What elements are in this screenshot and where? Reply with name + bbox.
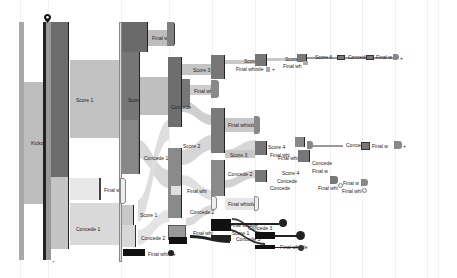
label-concede-j: Concede — [348, 54, 368, 60]
node-col3-score[interactable] — [168, 57, 182, 127]
end-dot-icon[interactable] — [168, 250, 174, 256]
node-col2-concede2[interactable] — [122, 225, 136, 247]
label-final-whi-o: Final whi — [318, 185, 338, 191]
node-col8-final[interactable] — [361, 179, 368, 186]
node-col3-black[interactable] — [169, 237, 187, 244]
label-final-whistle-d: Final whistle — [228, 122, 256, 128]
node-col2-final[interactable] — [120, 178, 126, 204]
label-concede-r: Concede — [277, 178, 297, 184]
link-score2 — [140, 77, 169, 115]
node-col3-final[interactable] — [167, 22, 175, 46]
node-col9-mid-final[interactable] — [394, 141, 402, 149]
node-col3-mid[interactable] — [168, 148, 182, 218]
node-col4-mid[interactable] — [211, 160, 225, 196]
node-col4-black[interactable] — [211, 219, 231, 231]
node-col4-final[interactable] — [211, 80, 219, 98]
label-score4b: Score 4 — [268, 144, 285, 150]
label-score2b: Score 2 — [183, 143, 200, 149]
node-col2-black[interactable] — [123, 249, 145, 256]
node-col6-mid1[interactable] — [295, 137, 305, 147]
label-concede1: Concede 1 — [76, 226, 100, 232]
node-concede-bar[interactable] — [51, 177, 69, 249]
node-final-w-a[interactable] — [99, 178, 101, 200]
label-final-w-a: Final w — [104, 187, 120, 193]
label-final-whistle-f: Final whistle — [228, 201, 256, 207]
node-col3-pale[interactable] — [171, 186, 181, 195]
label-final-wh-c: Final wh — [194, 88, 213, 94]
label-concede3b: Concede 3 — [248, 225, 272, 231]
label-final-wh-i: Final wh — [283, 63, 302, 69]
node-col8-concede[interactable] — [366, 55, 374, 60]
node-col4-black2[interactable] — [211, 235, 231, 241]
end-dot-icon[interactable] — [296, 231, 305, 240]
node-col7-score6[interactable] — [337, 55, 345, 60]
label-final-whistle-h: Final whistle — [236, 66, 264, 72]
label-final-whi-t2: Final whi — [342, 188, 362, 194]
node-col5-black2[interactable] — [255, 245, 275, 249]
link-mid-chain — [313, 145, 343, 147]
label-score6: Score 6 — [315, 54, 332, 60]
sankey-diagram: Kickoff + Score 1 Final w Concede 1 Scor… — [0, 0, 457, 278]
label-score3b: Score 3 — [230, 152, 247, 158]
node-col5-score4[interactable] — [255, 54, 267, 66]
label-final-whi-e: Final whi — [187, 188, 207, 194]
label-final-w-n: Final w — [312, 168, 328, 174]
link-concede1 — [70, 203, 120, 245]
label-score1: Score 1 — [76, 97, 93, 103]
map-pin-icon[interactable] — [44, 14, 51, 23]
label-concede2: Concede 2 — [141, 235, 165, 241]
node-final-whistle-f[interactable] — [254, 196, 259, 211]
label-concede2-mid: Concede 2 — [228, 171, 252, 177]
link-final-w-a — [70, 178, 100, 200]
node-col5-score4b[interactable] — [255, 141, 267, 155]
node-col5-final[interactable] — [266, 67, 270, 72]
node-col6-final[interactable] — [303, 61, 308, 65]
label-final-w-q: Final w — [372, 143, 388, 149]
label-plus-c: + — [403, 143, 406, 149]
label-score4c: Score 4 — [282, 170, 299, 176]
label-plus-a: + — [272, 66, 275, 72]
label-score1b: Score 1 — [140, 212, 157, 218]
label-final-w-s: Final w — [343, 180, 359, 186]
node-col4-concede[interactable] — [211, 108, 225, 153]
node-col9-final[interactable] — [393, 54, 399, 60]
label-concede-mid: Concede — [171, 104, 191, 110]
node-col8-mid[interactable] — [361, 142, 370, 150]
node-col4-score3[interactable] — [211, 55, 225, 79]
node-col4-final-pale[interactable] — [211, 196, 217, 210]
label-plus: + — [52, 258, 55, 264]
node-col5-black[interactable] — [255, 232, 275, 239]
node-col3-final-wh[interactable] — [182, 79, 190, 107]
node-final-whistle-d[interactable] — [254, 116, 260, 134]
node-col2-top[interactable] — [122, 22, 148, 52]
label-concede-m: Concede — [312, 160, 332, 166]
node-col6-final2[interactable] — [330, 176, 338, 184]
node-col8-final-pale[interactable] — [362, 188, 367, 193]
node-score-bar[interactable] — [51, 22, 69, 177]
node-col6-mid2[interactable] — [298, 150, 310, 162]
node-col2-concede[interactable] — [122, 120, 138, 174]
label-score3: Score 3 — [193, 67, 210, 73]
label-concede1b: Concede 1 — [144, 155, 168, 161]
node-col5-score4c[interactable] — [255, 170, 267, 182]
label-plus-b: + — [400, 55, 403, 61]
link-black-1 — [231, 223, 279, 225]
label-concede-p: Concede — [270, 185, 290, 191]
label-final-whi-g: Final whi — [193, 230, 213, 236]
end-dot-icon[interactable] — [279, 219, 287, 227]
end-dot-icon[interactable] — [298, 245, 304, 251]
label-final-w-k: Final w — [376, 54, 392, 60]
